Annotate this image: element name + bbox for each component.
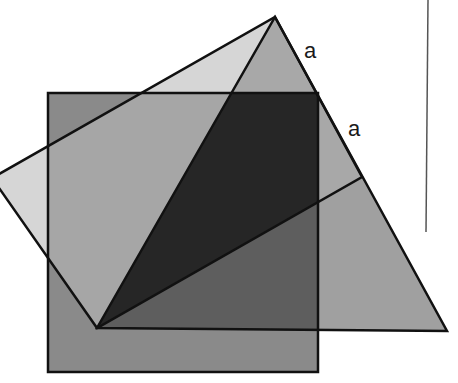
side-label-a-upper: a <box>304 38 317 63</box>
vertical-line <box>426 0 428 232</box>
side-label-a-lower: a <box>348 116 361 141</box>
geometry-diagram: a a <box>0 0 458 383</box>
